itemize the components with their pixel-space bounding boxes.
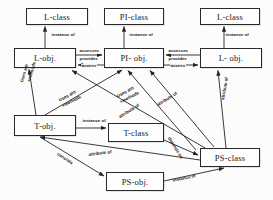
label-text: instance of bbox=[226, 32, 249, 37]
diagram-canvas: L-class PI-class L-class L-obj. PI- obj.… bbox=[0, 0, 273, 200]
edge-label-accesses-1: accesses bbox=[79, 49, 100, 54]
edge-label-provides-2: provides bbox=[168, 57, 187, 62]
edge-label-instance-of-1: instance of bbox=[51, 33, 75, 38]
diagram-edges-layer bbox=[0, 0, 273, 200]
edge-label-access-1: access bbox=[81, 64, 97, 69]
edge-label-provides-1: provides bbox=[79, 57, 98, 62]
edge-label-instance-of-2: instance of bbox=[129, 33, 153, 38]
edge-label-instance-of-4: instance of bbox=[82, 119, 106, 123]
node-label: T-class bbox=[123, 128, 148, 138]
edge-label-access-2: access bbox=[170, 64, 186, 69]
node-label: PS-obj. bbox=[122, 177, 149, 187]
node-label: PS-class bbox=[215, 153, 245, 163]
node-pi-class[interactable]: PI-class bbox=[104, 8, 164, 25]
label-text: provides bbox=[80, 56, 98, 61]
node-pi-obj[interactable]: PI- obj. bbox=[104, 48, 164, 68]
label-text: accesses bbox=[169, 48, 189, 53]
label-text: instance of bbox=[83, 118, 106, 123]
node-label: L-class bbox=[44, 12, 70, 22]
node-label: L- obj. bbox=[219, 53, 244, 63]
node-label: PI-class bbox=[120, 12, 149, 22]
label-text: access bbox=[82, 63, 97, 68]
node-ps-class[interactable]: PS-class bbox=[200, 148, 260, 167]
label-text: accesses bbox=[80, 48, 100, 53]
node-label: T-obj. bbox=[34, 121, 55, 131]
label-text: instance of bbox=[130, 32, 153, 37]
label-text: access bbox=[171, 63, 186, 68]
node-l-class-left[interactable]: L-class bbox=[26, 8, 88, 25]
node-t-class[interactable]: T-class bbox=[108, 123, 164, 142]
node-t-obj[interactable]: T-obj. bbox=[14, 115, 76, 136]
node-l-obj-right[interactable]: L- obj. bbox=[200, 48, 262, 68]
node-ps-obj[interactable]: PS-obj. bbox=[106, 172, 164, 191]
node-l-class-right[interactable]: L-class bbox=[200, 8, 260, 25]
label-text: instance of bbox=[52, 32, 75, 37]
node-label: L-class bbox=[217, 12, 243, 22]
edge-label-accesses-2: accesses bbox=[168, 49, 189, 54]
edge-label-instance-of-3: instance of bbox=[225, 33, 249, 38]
node-label: PI- obj. bbox=[120, 53, 147, 63]
label-text: provides bbox=[169, 56, 187, 61]
